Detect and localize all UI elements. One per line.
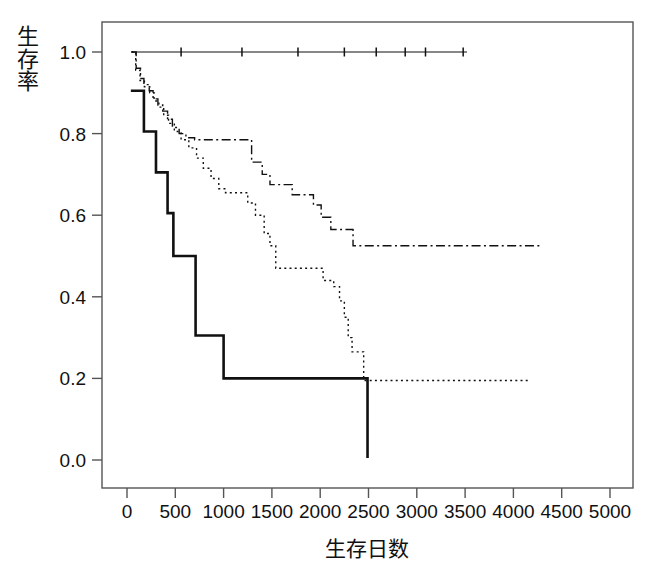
y-axis-tick-label: 0.0	[60, 450, 86, 471]
survival-chart-figure: 生 存 率 0500100015002000250030003500400045…	[0, 0, 660, 573]
y-axis: 0.00.20.40.60.81.0	[60, 42, 102, 471]
survival-curve	[131, 52, 542, 246]
x-axis-title: 生存日数	[325, 537, 409, 561]
x-axis-tick-label: 2000	[299, 501, 341, 522]
data-series-group	[131, 48, 543, 458]
y-axis-tick-label: 0.8	[60, 124, 86, 145]
y-axis-tick-label: 0.4	[60, 287, 87, 308]
x-axis-tick-label: 3500	[444, 501, 486, 522]
x-axis: 0500100015002000250030003500400045005000	[122, 488, 631, 522]
x-axis-tick-label: 0	[122, 501, 133, 522]
x-axis-tick-label: 500	[159, 501, 191, 522]
x-axis-tick-label: 4000	[492, 501, 534, 522]
x-axis-tick-label: 5000	[589, 501, 631, 522]
y-axis-tick-label: 0.2	[60, 368, 86, 389]
x-axis-tick-label: 1000	[202, 501, 244, 522]
survival-curve	[131, 91, 368, 458]
y-axis-tick-label: 1.0	[60, 42, 86, 63]
x-axis-tick-label: 1500	[251, 501, 293, 522]
survival-curve	[131, 52, 528, 380]
x-axis-tick-label: 2500	[347, 501, 389, 522]
plot-canvas: 0500100015002000250030003500400045005000…	[0, 0, 660, 573]
x-axis-tick-label: 3000	[396, 501, 438, 522]
x-axis-tick-label: 4500	[541, 501, 583, 522]
y-axis-tick-label: 0.6	[60, 205, 86, 226]
